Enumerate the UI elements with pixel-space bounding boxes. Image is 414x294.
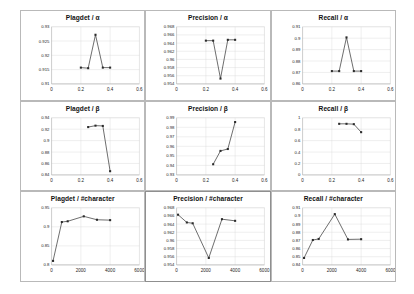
x-axis-tick-label: 6000 bbox=[385, 269, 395, 274]
data-point-marker bbox=[347, 239, 349, 241]
data-point-marker bbox=[61, 221, 63, 223]
x-axis-tick-label: 0.2 bbox=[203, 178, 210, 183]
data-point-marker bbox=[311, 239, 313, 241]
x-axis-tick-label: 6000 bbox=[134, 269, 144, 274]
y-axis-tick-label: 0.99 bbox=[167, 115, 176, 120]
y-axis-tick-label: 0.95 bbox=[41, 206, 50, 211]
data-point-marker bbox=[192, 223, 194, 225]
data-point-marker bbox=[83, 216, 85, 218]
x-axis-tick-label: 0 bbox=[301, 269, 304, 274]
data-series-line bbox=[88, 125, 110, 171]
data-point-marker bbox=[227, 148, 229, 150]
y-axis-tick-label: 0.92 bbox=[41, 126, 50, 131]
chart-panel: Plagdet / β 0.940.920.90.880.860.8400.20… bbox=[20, 101, 145, 192]
data-point-marker bbox=[52, 260, 54, 262]
data-point-marker bbox=[221, 218, 223, 220]
data-point-marker bbox=[317, 238, 319, 240]
data-point-marker bbox=[87, 67, 89, 69]
y-axis-tick-label: 0.84 bbox=[41, 172, 50, 177]
y-axis-tick-label: 0.86 bbox=[292, 81, 301, 86]
y-axis-tick-label: 0.958 bbox=[164, 65, 175, 70]
data-series-line bbox=[332, 37, 361, 71]
x-axis-tick-label: 0.2 bbox=[78, 178, 85, 183]
y-axis-tick-label: 0.93 bbox=[41, 24, 50, 29]
y-axis-tick-label: 0.89 bbox=[292, 222, 301, 227]
y-axis-tick-label: 0.91 bbox=[292, 24, 301, 29]
y-axis-tick-label: 0.86 bbox=[292, 246, 301, 251]
y-axis-tick-label: 0.9 bbox=[294, 36, 301, 41]
y-axis-tick-label: 0.9 bbox=[44, 225, 51, 230]
y-axis-tick-label: 0.962 bbox=[164, 230, 175, 235]
y-axis-tick-label: 0.87 bbox=[292, 238, 301, 243]
x-axis-tick-label: 0.4 bbox=[232, 87, 239, 92]
data-point-marker bbox=[102, 125, 104, 127]
data-point-marker bbox=[94, 34, 96, 36]
x-axis-tick-label: 0.6 bbox=[387, 87, 394, 92]
data-point-marker bbox=[220, 78, 222, 80]
data-point-marker bbox=[96, 219, 98, 221]
data-point-marker bbox=[360, 238, 362, 240]
x-axis-tick-label: 0.2 bbox=[78, 87, 85, 92]
x-axis-tick-label: 0 bbox=[301, 87, 304, 92]
data-point-marker bbox=[205, 40, 207, 42]
chart-panel: Precision / #character 0.9680.9660.9640.… bbox=[145, 191, 270, 282]
data-series-line bbox=[178, 215, 235, 258]
x-axis-tick-label: 0 bbox=[50, 269, 53, 274]
x-axis-tick-label: 0.6 bbox=[262, 178, 269, 183]
data-point-marker bbox=[177, 214, 179, 216]
chart-plot: 0.950.90.850.80200040006000 bbox=[21, 192, 144, 281]
y-axis-tick-label: 0.96 bbox=[167, 144, 176, 149]
y-axis-tick-label: 0.968 bbox=[164, 24, 175, 29]
x-axis-tick-label: 0.4 bbox=[107, 178, 114, 183]
y-axis-tick-label: 0.92 bbox=[41, 53, 50, 58]
chart-panel: Recall / #character 0.910.90.890.880.870… bbox=[271, 191, 396, 282]
chart-plot: 0.910.90.890.880.870.860.850.84020004000… bbox=[272, 192, 395, 281]
y-axis-tick-label: 0.87 bbox=[292, 70, 301, 75]
data-point-marker bbox=[345, 36, 347, 38]
y-axis-tick-label: 0.9 bbox=[44, 138, 51, 143]
data-point-marker bbox=[220, 150, 222, 152]
data-point-marker bbox=[352, 123, 354, 125]
y-axis-tick-label: 0.84 bbox=[292, 263, 301, 268]
y-axis-tick-label: 0.91 bbox=[292, 206, 301, 211]
data-point-marker bbox=[345, 122, 347, 124]
chart-panel: Recall / α 0.910.90.890.880.870.8600.20.… bbox=[271, 10, 396, 101]
y-axis-tick-label: 0.2 bbox=[294, 161, 301, 166]
data-point-marker bbox=[208, 257, 210, 259]
chart-plot: 0.9680.9660.9640.9620.960.9580.9560.9540… bbox=[146, 11, 269, 100]
x-axis-tick-label: 0 bbox=[50, 178, 53, 183]
data-point-marker bbox=[227, 39, 229, 41]
x-axis-tick-label: 4000 bbox=[230, 269, 241, 274]
x-axis-tick-label: 0 bbox=[176, 178, 179, 183]
data-series-line bbox=[206, 40, 235, 79]
y-axis-tick-label: 0.91 bbox=[41, 81, 50, 86]
chart-panel: Precision / β 0.990.980.970.960.950.940.… bbox=[145, 101, 270, 192]
x-axis-tick-label: 0.6 bbox=[387, 178, 394, 183]
y-axis-tick-label: 0.98 bbox=[167, 125, 176, 130]
y-axis-tick-label: 0.954 bbox=[164, 81, 175, 86]
data-point-marker bbox=[303, 257, 305, 259]
chart-plot: 0.9680.9660.9640.9620.960.9580.9560.9540… bbox=[146, 192, 269, 281]
x-axis-tick-label: 0.2 bbox=[328, 87, 335, 92]
x-axis-tick-label: 4000 bbox=[356, 269, 367, 274]
data-point-marker bbox=[360, 70, 362, 72]
y-axis-tick-label: 1 bbox=[298, 115, 301, 120]
y-axis-tick-label: 0.88 bbox=[292, 59, 301, 64]
y-axis-tick-label: 0.85 bbox=[41, 244, 50, 249]
x-axis-tick-label: 0 bbox=[176, 269, 179, 274]
x-axis-tick-label: 2000 bbox=[201, 269, 212, 274]
chart-panel: Precision / α 0.9680.9660.9640.9620.960.… bbox=[145, 10, 270, 101]
data-point-marker bbox=[234, 39, 236, 41]
data-series-line bbox=[304, 214, 361, 258]
x-axis-tick-label: 0.6 bbox=[136, 178, 143, 183]
data-point-marker bbox=[212, 40, 214, 42]
y-axis-tick-label: 0.94 bbox=[41, 115, 50, 120]
data-series-line bbox=[213, 122, 235, 164]
data-point-marker bbox=[94, 124, 96, 126]
x-axis-tick-label: 0.4 bbox=[232, 178, 239, 183]
y-axis-tick-label: 0.6 bbox=[294, 138, 301, 143]
chart-plot: 0.910.90.890.880.870.8600.20.40.6 bbox=[272, 11, 395, 100]
y-axis-tick-label: 0.85 bbox=[292, 255, 301, 260]
data-point-marker bbox=[234, 220, 236, 222]
chart-panel: Plagdet / α 0.930.9250.920.9150.9100.20.… bbox=[20, 10, 145, 101]
